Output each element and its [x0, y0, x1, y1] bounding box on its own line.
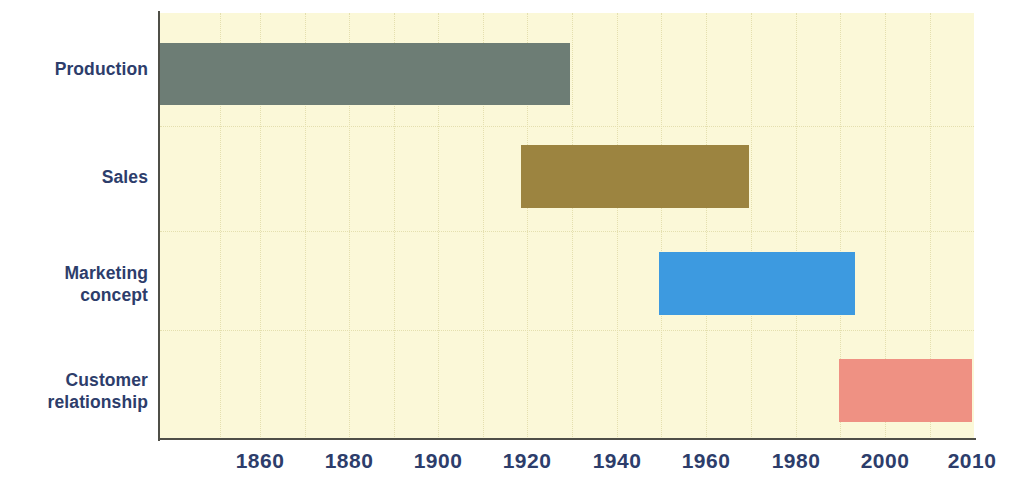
- vertical-gridline: [661, 13, 662, 439]
- horizontal-gridline: [160, 126, 974, 127]
- vertical-gridline: [751, 13, 752, 439]
- category-label: Production: [0, 58, 148, 80]
- y-axis-line: [158, 11, 160, 441]
- horizontal-gridline: [160, 330, 974, 331]
- timeline-bar: [521, 145, 749, 208]
- x-axis-line: [158, 438, 976, 440]
- x-tick-label: 1980: [772, 449, 821, 473]
- category-label: Marketing concept: [0, 262, 148, 306]
- x-tick-label: 1940: [593, 449, 642, 473]
- plot-area: [160, 13, 974, 439]
- timeline-bar: [659, 252, 855, 315]
- x-tick-label: 1900: [414, 449, 463, 473]
- vertical-gridline: [706, 13, 707, 439]
- timeline-bar: [160, 43, 570, 105]
- x-tick-label: 2010: [948, 449, 997, 473]
- vertical-gridline: [796, 13, 797, 439]
- horizontal-gridline: [160, 231, 974, 232]
- chart-screenshot: ProductionSalesMarketing conceptCustomer…: [0, 0, 1017, 501]
- category-label: Customer relationship: [0, 369, 148, 413]
- timeline-bar: [839, 359, 972, 422]
- x-tick-label: 1880: [325, 449, 374, 473]
- category-label: Sales: [0, 166, 148, 188]
- x-tick-label: 1960: [682, 449, 731, 473]
- x-tick-label: 2000: [861, 449, 910, 473]
- vertical-gridline: [617, 13, 618, 439]
- vertical-gridline: [572, 13, 573, 439]
- x-tick-label: 1860: [236, 449, 285, 473]
- x-tick-label: 1920: [503, 449, 552, 473]
